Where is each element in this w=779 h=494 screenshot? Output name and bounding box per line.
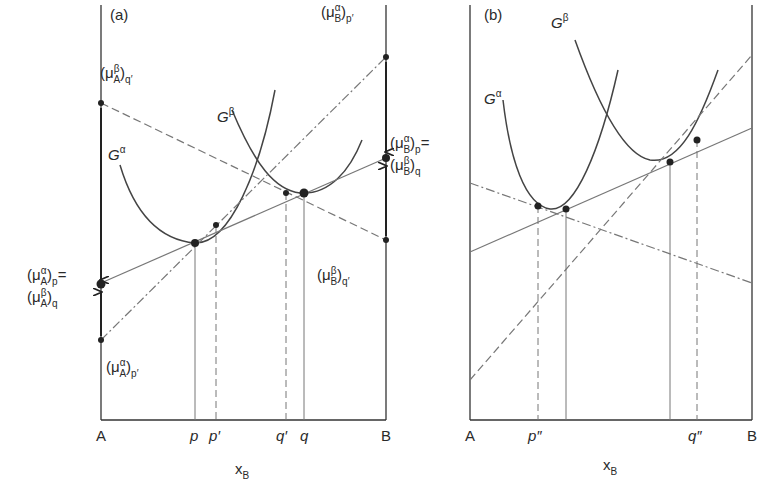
tick-a-pprime: p′ xyxy=(208,427,221,444)
point-muB-qprime xyxy=(383,237,389,243)
svg-text:Gα: Gα xyxy=(108,144,126,163)
point-muB-pprime xyxy=(383,54,389,60)
point-b-pdoubleprime xyxy=(535,203,542,210)
label-g-beta-b: Gβ xyxy=(551,12,569,31)
label-muB-alpha-pprime: (μαB)p′ xyxy=(321,2,354,24)
tick-b-qdoubleprime: q″ xyxy=(688,427,702,444)
label-muA-alpha-pprime: (μαA)p′ xyxy=(106,357,139,379)
panel-a: (a) Gα Gβ (μβA)q′ (μαA)p= (μβA)q (μαA)p′… xyxy=(27,2,430,481)
point-a-p xyxy=(191,239,199,247)
point-b-qdoubleprime xyxy=(694,137,701,144)
curve-g-alpha-a xyxy=(120,90,275,243)
svg-text:Gβ: Gβ xyxy=(551,12,569,31)
axis-b-label-B: B xyxy=(747,427,757,444)
curve-g-beta-a xyxy=(232,110,362,193)
point-muB-p xyxy=(382,154,390,162)
svg-text:xB: xB xyxy=(235,460,250,481)
svg-text:Gα: Gα xyxy=(484,88,502,107)
label-g-alpha-a: Gα xyxy=(108,144,126,163)
panel-b: (b) Gα Gβ A p″ q″ B xB xyxy=(465,5,757,477)
tick-a-qprime: q′ xyxy=(276,427,288,444)
point-a-pprime xyxy=(213,222,219,228)
point-muA-qprime xyxy=(98,100,104,106)
label-muA-beta-qprime: (μβA)q′ xyxy=(100,63,133,85)
x-axis-title-b: xB xyxy=(603,456,618,477)
label-g-alpha-b: Gα xyxy=(484,88,502,107)
tangent-dashed-b xyxy=(470,55,752,380)
tick-a-p: p xyxy=(189,427,198,444)
point-a-qprime xyxy=(283,190,289,196)
label-muB-beta-qprime: (μβB)q′ xyxy=(317,265,350,287)
svg-text:(μαA)p′: (μαA)p′ xyxy=(106,357,139,379)
svg-text:(μαA)p=: (μαA)p= xyxy=(27,265,67,287)
svg-text:(μαB)p=: (μαB)p= xyxy=(390,133,430,155)
svg-text:(μβA)q′: (μβA)q′ xyxy=(100,63,133,85)
curve-g-alpha-b xyxy=(503,70,618,209)
point-muA-pprime xyxy=(98,337,104,343)
panel-label-b: (b) xyxy=(484,6,502,23)
svg-text:xB: xB xyxy=(603,456,618,477)
tick-b-pdoubleprime: p″ xyxy=(527,427,542,444)
svg-text:(μβB)q: (μβB)q xyxy=(390,155,421,177)
figure: (a) Gα Gβ (μβA)q′ (μαA)p= (μβA)q (μαA)p′… xyxy=(0,0,779,494)
label-muA-beta-q: (μβA)q xyxy=(27,287,58,309)
point-muA-p xyxy=(97,280,106,289)
x-axis-title-a: xB xyxy=(235,460,250,481)
point-b-q xyxy=(667,159,674,166)
point-b-p xyxy=(563,206,570,213)
label-muB-beta-q: (μβB)q xyxy=(390,155,421,177)
svg-text:(μαB)p′: (μαB)p′ xyxy=(321,2,354,24)
label-muA-alpha-p: (μαA)p= xyxy=(27,265,67,287)
label-muB-alpha-p: (μαB)p= xyxy=(390,133,430,155)
point-a-q xyxy=(300,189,309,198)
label-g-beta-a: Gβ xyxy=(217,106,235,125)
common-tangent-a xyxy=(101,158,386,283)
tick-a-q: q xyxy=(300,427,309,444)
tangent-alpha-pprime xyxy=(101,57,386,340)
axis-a-label-B: B xyxy=(381,427,391,444)
panel-label-a: (a) xyxy=(110,6,128,23)
axis-b-label-A: A xyxy=(465,427,475,444)
svg-text:(μβA)q: (μβA)q xyxy=(27,287,58,309)
svg-text:Gβ: Gβ xyxy=(217,106,235,125)
axis-a-label-A: A xyxy=(96,427,106,444)
svg-text:(μβB)q′: (μβB)q′ xyxy=(317,265,350,287)
